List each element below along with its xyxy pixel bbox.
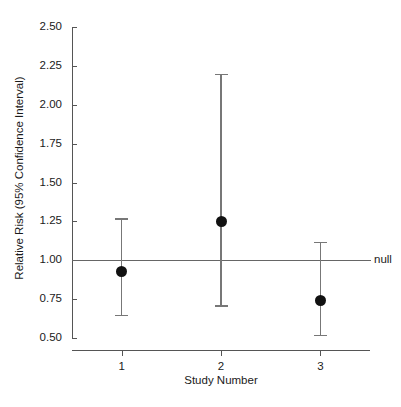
y-tick-label: 2.00: [26, 98, 62, 110]
y-tick-label: 1.00: [26, 253, 62, 265]
y-tick-mark: [72, 299, 77, 300]
y-tick-mark: [72, 144, 77, 145]
y-tick-label: 1.50: [26, 176, 62, 188]
y-tick-label: 0.75: [26, 292, 62, 304]
confidence-interval-upper-cap: [314, 242, 327, 243]
y-tick-mark: [72, 338, 77, 339]
forest-plot-figure: Relative Risk (95% Confidence Interval) …: [0, 0, 401, 407]
y-tick-label: 2.50: [26, 20, 62, 32]
estimate-point-marker: [116, 266, 127, 277]
confidence-interval-line: [220, 74, 221, 306]
confidence-interval-line: [320, 242, 321, 335]
x-tick-mark: [320, 350, 321, 356]
confidence-interval-lower-cap: [115, 315, 128, 316]
y-tick-mark: [72, 66, 77, 67]
estimate-point-marker: [315, 295, 326, 306]
confidence-interval-upper-cap: [115, 218, 128, 219]
y-tick-mark: [72, 183, 77, 184]
y-tick-label: 2.25: [26, 59, 62, 71]
confidence-interval-upper-cap: [215, 74, 228, 75]
estimate-point-marker: [216, 216, 227, 227]
y-tick-label: 1.25: [26, 214, 62, 226]
y-tick-mark: [72, 27, 77, 28]
y-tick-mark: [72, 105, 77, 106]
y-tick-mark: [72, 221, 77, 222]
x-tick-label: 3: [300, 360, 340, 372]
y-tick-label: 0.50: [26, 331, 62, 343]
y-tick-label: 1.75: [26, 137, 62, 149]
x-tick-mark: [122, 350, 123, 356]
x-axis-label: Study Number: [72, 374, 370, 386]
x-tick-label: 1: [102, 360, 142, 372]
x-tick-label: 2: [201, 360, 241, 372]
confidence-interval-lower-cap: [314, 335, 327, 336]
x-tick-mark: [221, 350, 222, 356]
confidence-interval-lower-cap: [215, 305, 228, 306]
null-reference-label: null: [374, 253, 392, 265]
